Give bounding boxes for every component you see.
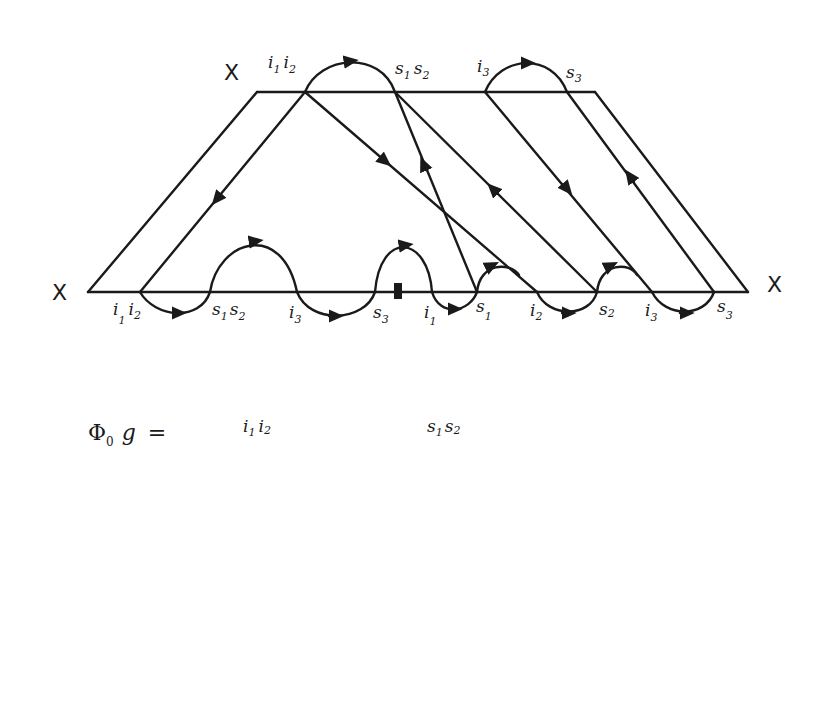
arrow-icon bbox=[606, 265, 612, 268]
arc-bottom-i3-s3 bbox=[297, 292, 375, 316]
svg-text:i2: i2 bbox=[530, 300, 542, 323]
arrow-icon bbox=[400, 245, 407, 246]
arrow-icon bbox=[492, 188, 498, 194]
arc-bottom-i1-s1 bbox=[432, 292, 477, 309]
diag-i1i2-to-i2 bbox=[305, 92, 537, 292]
arc-bottom-s3-i1 bbox=[375, 247, 432, 292]
svg-text:s1: s1 bbox=[476, 296, 492, 323]
svg-text:i1: i1 bbox=[424, 302, 436, 328]
arc-bottom-s1s2-i3 bbox=[210, 245, 297, 292]
equation-phi0: Φ0g= i1i2 s1s2 bbox=[88, 416, 460, 449]
arc-top-i3-s3 bbox=[485, 63, 567, 92]
svg-text:s1s2: s1s2 bbox=[212, 299, 245, 323]
svg-text:i1i2: i1i2 bbox=[113, 299, 141, 327]
svg-text:i1i2: i1i2 bbox=[268, 52, 296, 76]
diagonal-lines bbox=[140, 92, 714, 292]
arc-bottom-s2-i3 bbox=[597, 267, 637, 292]
arc-top-i1i2-s1s2 bbox=[305, 62, 395, 92]
trapezoid bbox=[88, 92, 748, 292]
label-x-right: X bbox=[767, 272, 782, 297]
diagram-canvas: X X X bbox=[0, 0, 813, 717]
arc-bottom-s1-i2 bbox=[477, 267, 519, 292]
arrow-icon bbox=[250, 241, 257, 242]
arrow-icon bbox=[345, 61, 352, 62]
svg-text:s3: s3 bbox=[717, 296, 733, 322]
diag-i3-to-i3 bbox=[485, 92, 652, 292]
arc-bottom-i3-s3-right bbox=[652, 292, 714, 312]
svg-text:s1s2: s1s2 bbox=[427, 416, 460, 439]
svg-text:s1s2: s1s2 bbox=[395, 58, 429, 82]
top-arcs bbox=[305, 61, 567, 92]
svg-text:i3: i3 bbox=[645, 300, 657, 324]
arrow-icon bbox=[216, 194, 221, 200]
label-x-top: X bbox=[224, 60, 239, 85]
svg-text:i1i2: i1i2 bbox=[243, 416, 271, 439]
svg-text:i3: i3 bbox=[289, 302, 301, 326]
svg-text:s3: s3 bbox=[373, 302, 389, 326]
svg-text:s2: s2 bbox=[599, 299, 615, 320]
svg-text:i3: i3 bbox=[477, 56, 489, 79]
phi0-lhs: Φ0g= bbox=[88, 420, 166, 449]
top-labels: i1i2 s1s2 i3 s3 bbox=[268, 52, 582, 85]
label-x-left: X bbox=[52, 280, 67, 305]
right-edge bbox=[595, 92, 748, 292]
boundary-marker bbox=[394, 283, 402, 299]
diag-s3-to-s3 bbox=[567, 92, 714, 292]
left-edge bbox=[88, 92, 257, 292]
arc-bottom-i2-s2 bbox=[537, 292, 597, 312]
svg-text:s3: s3 bbox=[566, 62, 582, 85]
diag-s1s2-to-s1 bbox=[395, 92, 477, 292]
arc-bottom-i1i2-s1s2 bbox=[140, 292, 210, 313]
